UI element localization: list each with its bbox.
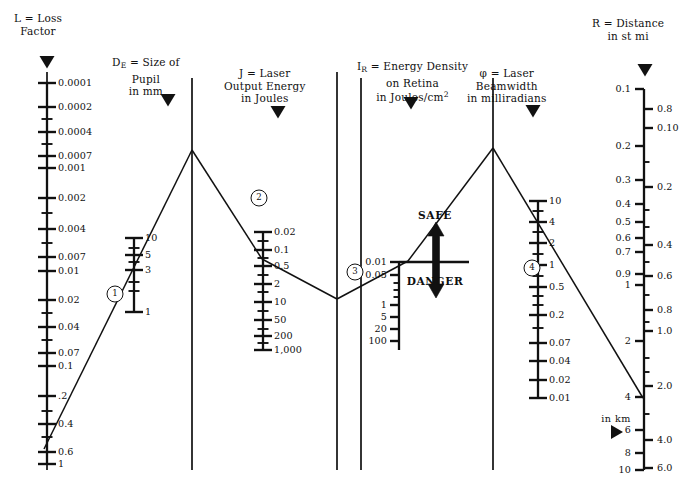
pointer-km bbox=[611, 425, 623, 439]
tick-label-L-9: 0.004 bbox=[58, 224, 86, 234]
tick-label-L-0: 0.0001 bbox=[58, 78, 92, 88]
tick-label-DE-7: 1 bbox=[145, 307, 151, 317]
tick-label-J-10: 50 bbox=[274, 315, 286, 325]
index-marker-1: 1 bbox=[107, 286, 124, 303]
tick-label-IR-1: 0.05 bbox=[365, 270, 387, 280]
tick-label-R-stmi-10: 4 bbox=[625, 392, 631, 402]
tick-label-L-7: 0.002 bbox=[58, 193, 86, 203]
tick-label-R-km-8: 0.6 bbox=[657, 271, 673, 281]
tick-label-R-km-10: 0.8 bbox=[657, 305, 673, 315]
tick-label-L-12: 0.01 bbox=[58, 266, 80, 276]
pointer-L bbox=[40, 56, 55, 69]
tick-label-J-12: 200 bbox=[274, 331, 293, 341]
line-5 bbox=[408, 148, 493, 261]
pointer-R bbox=[638, 64, 653, 77]
line-2 bbox=[192, 150, 262, 259]
tick-label-L-11: 0.007 bbox=[58, 252, 86, 262]
tick-label-J-8: 10 bbox=[274, 297, 286, 307]
tick-label-PHI-4: 2 bbox=[549, 238, 555, 248]
tick-label-R-km-0: 0.8 bbox=[657, 104, 673, 114]
tick-label-R-stmi-11: 6 bbox=[625, 425, 631, 435]
tick-label-PHI-16: 0.01 bbox=[549, 393, 571, 403]
tick-label-IR-7: 20 bbox=[375, 324, 387, 334]
tick-label-R-stmi-1: 0.2 bbox=[615, 141, 631, 151]
header-beamwidth: φ = LaserBeamwidthin milliradians bbox=[467, 67, 547, 105]
pointer-J bbox=[271, 106, 286, 119]
index-marker-3: 3 bbox=[347, 264, 364, 281]
tick-label-L-5: 0.0007 bbox=[58, 151, 92, 161]
tick-label-PHI-14: 0.04 bbox=[549, 356, 571, 366]
tick-label-R-km-6: 0.4 bbox=[657, 240, 673, 250]
tick-label-J-0: 0.02 bbox=[274, 227, 296, 237]
tick-label-IR-6: 5 bbox=[381, 312, 387, 322]
tick-label-J-2: 0.1 bbox=[274, 245, 290, 255]
tick-label-R-km-15: 2.0 bbox=[657, 381, 673, 391]
tick-label-L-18: 0.1 bbox=[58, 361, 74, 371]
tick-label-IR-8: 100 bbox=[368, 336, 387, 346]
tick-label-PHI-13: 0.07 bbox=[549, 338, 571, 348]
tick-label-DE-4: 3 bbox=[145, 265, 151, 275]
nomogram-canvas bbox=[0, 0, 698, 498]
header-retina-energy-density: IR = Energy Densityon Retinain Joules/cm… bbox=[357, 60, 468, 104]
tick-label-L-3: 0.0004 bbox=[58, 127, 92, 137]
km-units-note: in km bbox=[601, 413, 631, 424]
tick-label-L-6: 0.001 bbox=[58, 163, 86, 173]
tick-label-R-stmi-0: 0.1 bbox=[615, 84, 631, 94]
index-marker-2: 2 bbox=[251, 190, 268, 207]
tick-label-PHI-15: 0.02 bbox=[549, 375, 571, 385]
tick-label-PHI-2: 4 bbox=[549, 217, 555, 227]
tick-label-L-1: 0.0002 bbox=[58, 102, 92, 112]
tick-label-PHI-8: 0.5 bbox=[549, 282, 565, 292]
danger-label: DANGER bbox=[407, 275, 464, 287]
tick-label-R-km-3: 0.2 bbox=[657, 182, 673, 192]
tick-label-R-stmi-2: 0.3 bbox=[615, 175, 631, 185]
tick-label-R-km-1: 0.10 bbox=[657, 123, 679, 133]
tick-label-R-stmi-4: 0.5 bbox=[615, 217, 631, 227]
tick-label-L-13: 0.02 bbox=[58, 295, 80, 305]
tick-label-R-stmi-7: 0.9 bbox=[615, 269, 631, 279]
tick-label-R-stmi-9: 2 bbox=[625, 336, 631, 346]
tick-label-L-19: .2 bbox=[58, 391, 67, 401]
tick-label-J-4: 0.5 bbox=[274, 261, 290, 271]
index-marker-4: 4 bbox=[524, 260, 541, 277]
header-output-energy: J = LaserOutput Energyin Joules bbox=[224, 67, 306, 105]
tick-label-L-24: 1 bbox=[58, 459, 64, 469]
safe-label: SAFE bbox=[418, 209, 452, 221]
tick-label-R-stmi-6: 0.7 bbox=[615, 247, 631, 257]
tick-label-L-23: 0.6 bbox=[58, 447, 74, 457]
tick-label-PHI-11: 0.2 bbox=[549, 310, 565, 320]
tick-label-R-km-17: 4.0 bbox=[657, 435, 673, 445]
tick-label-DE-2: 5 bbox=[145, 250, 151, 260]
pointer-PHI bbox=[526, 105, 541, 118]
tick-label-PHI-6: 1 bbox=[549, 260, 555, 270]
tick-label-PHI-0: 10 bbox=[549, 196, 561, 206]
tick-label-R-stmi-12: 8 bbox=[625, 448, 631, 458]
tick-label-R-km-12: 1.0 bbox=[657, 326, 673, 336]
tick-label-R-km-18: 6.0 bbox=[657, 463, 673, 473]
tick-label-J-6: 2 bbox=[274, 279, 280, 289]
tick-label-J-14: 1,000 bbox=[274, 345, 302, 355]
tick-label-R-stmi-3: 0.4 bbox=[615, 199, 631, 209]
tick-label-R-stmi-13: 10 bbox=[619, 465, 631, 475]
header-pupil-size: DE = Size ofPupilin mm bbox=[112, 56, 180, 98]
tick-label-IR-0: 0.01 bbox=[365, 257, 387, 267]
nomogram-figure: 0.00010.00020.00040.00070.0010.0020.0040… bbox=[0, 0, 698, 498]
header-distance: R = Distancein st mi bbox=[592, 17, 664, 42]
tick-label-R-stmi-5: 0.6 bbox=[615, 233, 631, 243]
tick-label-R-stmi-8: 1 bbox=[625, 280, 631, 290]
header-loss-factor: L = LossFactor bbox=[14, 12, 62, 37]
tick-label-L-17: 0.07 bbox=[58, 348, 80, 358]
tick-label-IR-5: 1 bbox=[381, 300, 387, 310]
tick-label-DE-0: 10 bbox=[145, 233, 157, 243]
tick-label-L-15: 0.04 bbox=[58, 322, 80, 332]
tick-label-L-21: 0.4 bbox=[58, 419, 74, 429]
